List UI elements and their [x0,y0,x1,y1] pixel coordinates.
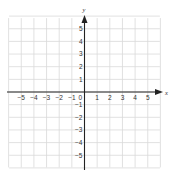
origin-label: 0 [79,94,83,101]
coordinate-plane: x y 0 −5−4−3−2−112345 54321−1−2−3−4−5 [0,0,173,175]
x-tick-label: −1 [68,94,76,101]
x-tick-label: −5 [18,94,26,101]
x-tick-label: 2 [108,94,112,101]
x-tick-label: −2 [55,94,63,101]
y-tick-label: 2 [79,63,83,70]
y-tick-label: 3 [79,50,83,57]
y-tick-label: −3 [75,126,83,133]
y-tick-label: −1 [75,101,83,108]
x-tick-label: 4 [133,94,137,101]
y-tick-label: 5 [79,25,83,32]
y-axis-label: y [82,6,86,13]
x-tick-label: 3 [121,94,125,101]
x-tick-label: −3 [43,94,51,101]
x-tick-label: 5 [146,94,150,101]
y-tick-label: −2 [75,114,83,121]
x-tick-label: −4 [30,94,38,101]
x-axis-label: x [164,89,168,96]
x-axis-arrow-icon [155,89,163,95]
y-tick-label: −5 [75,152,83,159]
x-tick-labels: −5−4−3−2−112345 [18,94,150,101]
x-tick-label: 1 [95,94,99,101]
y-tick-label: −4 [75,139,83,146]
y-tick-label: 1 [79,76,83,83]
y-tick-label: 4 [79,38,83,45]
